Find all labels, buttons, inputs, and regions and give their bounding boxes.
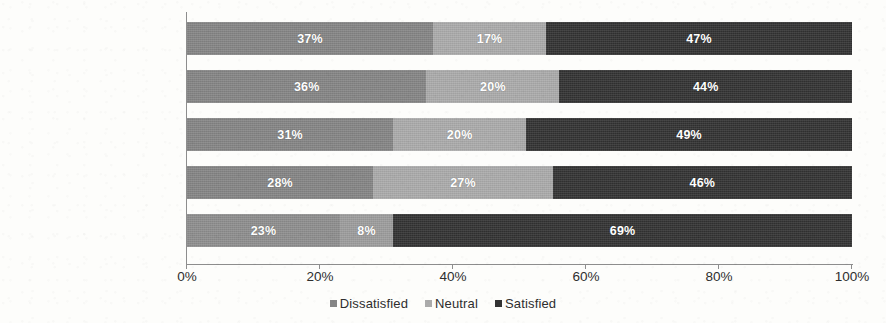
legend-swatch-icon <box>495 300 502 307</box>
bar-segment-satisfied[interactable]: 69% <box>393 214 852 247</box>
bar-value-label: 27% <box>450 176 476 190</box>
bar-row-organizational-support[interactable]: 36% 20% 44% <box>187 70 852 103</box>
legend-item-neutral[interactable]: Neutral <box>425 296 478 311</box>
x-tick-label-40: 40% <box>439 269 466 284</box>
bar-row-career-development[interactable]: 31% 20% 49% <box>187 118 852 151</box>
bar-value-label: 17% <box>477 32 503 46</box>
bar-segment-neutral[interactable]: 20% <box>426 70 559 103</box>
bar-value-label: 47% <box>686 32 712 46</box>
legend-item-satisfied[interactable]: Satisfied <box>495 296 556 311</box>
x-tick-label-80: 80% <box>705 269 732 284</box>
bar-segment-neutral[interactable]: 8% <box>340 214 393 247</box>
bar-row-current-budget[interactable]: 37% 17% 47% <box>187 22 852 55</box>
bar-segment-dissatisfied[interactable]: 36% <box>187 70 426 103</box>
bar-segment-neutral[interactable]: 20% <box>393 118 526 151</box>
bar-value-label: 20% <box>447 128 473 142</box>
bar-row-compensation[interactable]: 28% 27% 46% <box>187 166 852 199</box>
legend-swatch-icon <box>425 300 432 307</box>
legend-item-dissatisfied[interactable]: Dissatisfied <box>330 296 408 311</box>
x-tick-label-20: 20% <box>306 269 333 284</box>
legend-label: Neutral <box>435 296 478 311</box>
bar-value-label: 69% <box>610 224 636 238</box>
bar-value-label: 20% <box>480 80 506 94</box>
legend-label: Dissatisfied <box>340 296 408 311</box>
x-tick-label-60: 60% <box>572 269 599 284</box>
bar-value-label: 23% <box>251 224 277 238</box>
bar-segment-satisfied[interactable]: 47% <box>546 22 852 55</box>
legend-label: Satisfied <box>505 296 556 311</box>
bar-segment-dissatisfied[interactable]: 37% <box>187 22 433 55</box>
bar-segment-satisfied[interactable]: 49% <box>526 118 852 151</box>
bar-value-label: 44% <box>693 80 719 94</box>
bar-segment-dissatisfied[interactable]: 28% <box>187 166 373 199</box>
bar-value-label: 28% <box>267 176 293 190</box>
chart-legend: Dissatisfied Neutral Satisfied <box>0 296 886 311</box>
bar-segment-neutral[interactable]: 27% <box>373 166 553 199</box>
bar-segment-neutral[interactable]: 17% <box>433 22 546 55</box>
stacked-bar-chart-figure: Current budget Organizational support Ca… <box>0 0 886 323</box>
bar-row-executive-visibility[interactable]: 23% 8% 69% <box>187 214 852 247</box>
bar-segment-dissatisfied[interactable]: 31% <box>187 118 393 151</box>
legend-swatch-icon <box>330 300 337 307</box>
bar-value-label: 49% <box>676 128 702 142</box>
x-axis-line <box>186 264 853 265</box>
x-tick-label-100: 100% <box>835 269 870 284</box>
bar-value-label: 36% <box>294 80 320 94</box>
x-tick-label-0: 0% <box>177 269 197 284</box>
bar-segment-satisfied[interactable]: 46% <box>553 166 852 199</box>
bar-segment-dissatisfied[interactable]: 23% <box>187 214 340 247</box>
bar-value-label: 37% <box>297 32 323 46</box>
bar-value-label: 8% <box>357 224 375 238</box>
bar-segment-satisfied[interactable]: 44% <box>559 70 852 103</box>
bar-value-label: 46% <box>690 176 716 190</box>
bar-value-label: 31% <box>277 128 303 142</box>
plot-area: 37% 17% 47% 36% 20% 44% 31% <box>187 12 852 265</box>
